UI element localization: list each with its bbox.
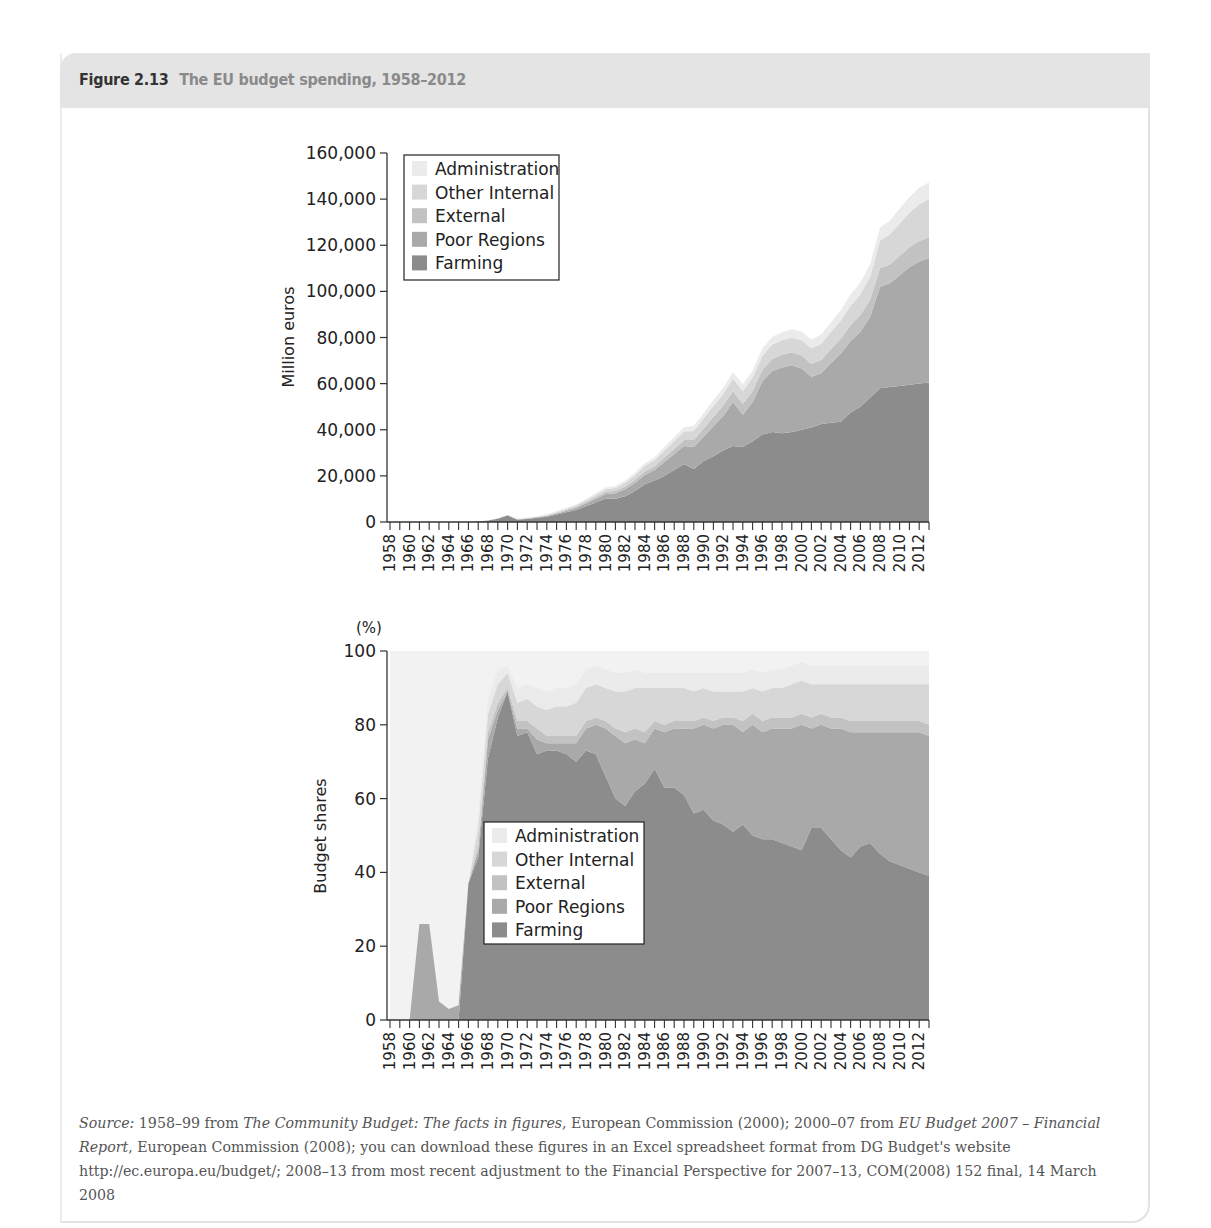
- legend-swatch-external: [492, 875, 507, 890]
- x-tick-label: 1958: [381, 1032, 399, 1070]
- x-tick-label: 2012: [910, 1032, 928, 1070]
- x-tick-label: 1978: [577, 1032, 595, 1070]
- legend-label: Administration: [515, 826, 639, 846]
- legend-swatch-other-internal: [492, 852, 507, 867]
- source-label: Source:: [79, 1115, 134, 1131]
- source-text: The Community Budget: The facts in figur…: [243, 1115, 562, 1131]
- legend-swatch-poor-regions: [492, 899, 507, 914]
- y-tick-label: 20: [354, 936, 376, 956]
- legend-swatch-farming: [492, 922, 507, 937]
- x-tick-label: 1992: [714, 1032, 732, 1070]
- y-tick-label: 100: [344, 641, 376, 661]
- source-note: Source: 1958–99 from The Community Budge…: [79, 1111, 1129, 1207]
- x-tick-label: 1986: [655, 1032, 673, 1070]
- x-tick-label: 2002: [812, 1032, 830, 1070]
- x-tick-label: 1970: [499, 1032, 517, 1070]
- legend-label: Other Internal: [515, 850, 634, 870]
- x-tick-label: 1982: [616, 1032, 634, 1070]
- source-text: , European Commission (2008); you can do…: [79, 1139, 1097, 1203]
- x-tick-label: 1974: [538, 1032, 556, 1070]
- y-tick-label: 40: [354, 862, 376, 882]
- legend: AdministrationOther InternalExternalPoor…: [484, 822, 644, 944]
- x-tick-label: 2010: [891, 1032, 909, 1070]
- x-tick-label: 1984: [636, 1032, 654, 1070]
- x-tick-label: 1996: [753, 1032, 771, 1070]
- x-tick-label: 1968: [479, 1032, 497, 1070]
- x-tick-label: 1980: [597, 1032, 615, 1070]
- x-tick-label: 2008: [871, 1032, 889, 1070]
- source-text: , European Commission (2000); 2000–07 fr…: [562, 1115, 898, 1131]
- x-tick-label: 1998: [773, 1032, 791, 1070]
- y-unit-label: (%): [356, 619, 382, 637]
- source-text: 1958–99 from: [134, 1115, 243, 1131]
- x-tick-label: 1972: [518, 1032, 536, 1070]
- x-tick-label: 1988: [675, 1032, 693, 1070]
- x-tick-label: 1964: [440, 1032, 458, 1070]
- y-axis-title: Budget shares: [311, 778, 330, 893]
- x-tick-label: 1976: [557, 1032, 575, 1070]
- x-tick-label: 1990: [695, 1032, 713, 1070]
- x-tick-label: 1966: [459, 1032, 477, 1070]
- x-tick-label: 1962: [420, 1032, 438, 1070]
- x-tick-label: 2006: [851, 1032, 869, 1070]
- legend-label: Farming: [515, 920, 583, 940]
- legend-label: Poor Regions: [515, 897, 625, 917]
- legend-label: External: [515, 873, 586, 893]
- x-tick-label: 1994: [734, 1032, 752, 1070]
- x-tick-label: 2004: [832, 1032, 850, 1070]
- y-tick-label: 60: [354, 789, 376, 809]
- y-tick-label: 80: [354, 715, 376, 735]
- legend-swatch-administration: [492, 828, 507, 843]
- chart-budget-shares: 0204060801001958196019621964196619681970…: [0, 0, 1211, 1100]
- y-tick-label: 0: [365, 1010, 376, 1030]
- x-tick-label: 1960: [401, 1032, 419, 1070]
- x-tick-label: 2000: [793, 1032, 811, 1070]
